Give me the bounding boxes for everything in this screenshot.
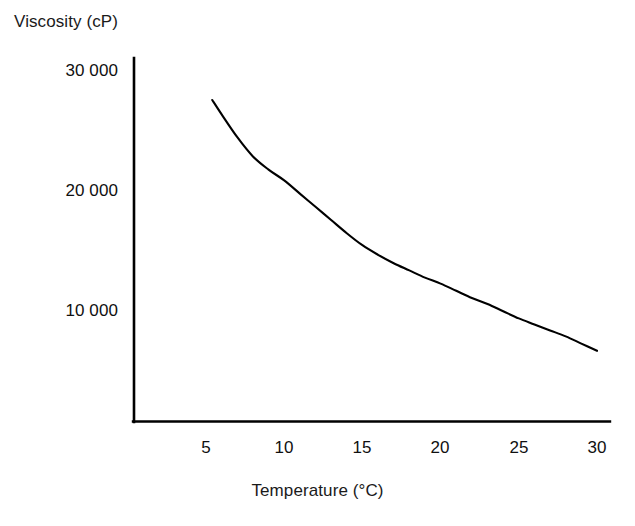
viscosity-curve: [212, 100, 597, 351]
x-axis-title: Temperature (°C): [0, 481, 635, 501]
plot-area: [0, 0, 635, 526]
chart-figure: Viscosity (cP) 30 000 20 000 10 000 5 10…: [0, 0, 635, 526]
